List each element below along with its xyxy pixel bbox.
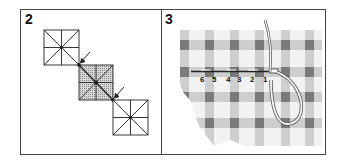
arrow-icon: [81, 52, 91, 63]
stitch-number-3: 3: [237, 75, 242, 84]
panel-3: 3: [165, 11, 324, 148]
stitch-number-2: 2: [250, 75, 255, 84]
arrow-icon: [115, 87, 125, 98]
instruction-figure: 2: [0, 0, 342, 164]
stitch-grid-square-2-shaded: [78, 64, 115, 102]
stitch-number-5: 5: [212, 75, 217, 84]
panel-3-label: 3: [165, 11, 173, 27]
stitch-number-6: 6: [200, 75, 205, 84]
stitch-number-4: 4: [226, 75, 231, 84]
stitch-number-1: 1: [263, 75, 268, 84]
panel-2: 2: [25, 11, 148, 135]
panel-2-label: 2: [25, 11, 33, 27]
stitch-grid-square-1: [44, 30, 79, 65]
stitch-grid-square-3: [113, 100, 148, 135]
gingham-fabric: [178, 28, 324, 148]
